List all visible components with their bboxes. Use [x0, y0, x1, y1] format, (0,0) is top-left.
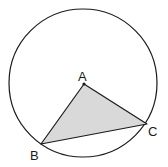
label-c: C [148, 124, 157, 139]
label-b: B [30, 148, 39, 163]
geometry-diagram: A B C [0, 0, 168, 167]
label-a: A [78, 69, 87, 84]
triangle-abc [41, 84, 147, 144]
